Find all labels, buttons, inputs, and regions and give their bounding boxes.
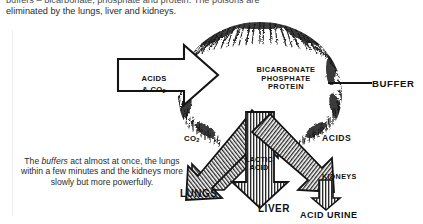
lactic-line-2: ACID bbox=[234, 164, 284, 172]
body-text-line-1-rest: – bicarbonate, phosphate and protein. Th… bbox=[34, 0, 260, 5]
caption-italic-term: buffers bbox=[42, 156, 68, 166]
input-label-line-2: & CO2 bbox=[118, 84, 190, 97]
organ-label-liver: LIVER bbox=[258, 203, 290, 214]
input-label-co: & CO bbox=[142, 85, 162, 94]
co2-subscript: 2 bbox=[196, 137, 200, 143]
organ-label-lungs: LUNGS bbox=[180, 188, 218, 199]
input-arrow-label: ACIDS & CO2 bbox=[118, 73, 190, 97]
core-line-3: PROTEIN bbox=[240, 83, 332, 92]
body-text-italic-term: buffers bbox=[6, 0, 34, 5]
buffer-core-label: BICARBONATE PHOSPHATE PROTEIN bbox=[240, 66, 332, 92]
page-root: buffers – bicarbonate, phosphate and pro… bbox=[0, 0, 423, 224]
output-label-co2: CO2 bbox=[184, 134, 200, 143]
co2-text: CO bbox=[184, 134, 196, 143]
buffer-system-diagram: BICARBONATE PHOSPHATE PROTEIN ACIDS & CO… bbox=[100, 14, 423, 224]
buffer-pointer-label: BUFFER bbox=[372, 78, 415, 89]
input-label-subscript: 2 bbox=[162, 88, 165, 94]
organ-label-kidneys: KIDNEYS bbox=[322, 172, 357, 181]
output-label-lactic-acid: LACTIC ACID bbox=[234, 156, 284, 172]
caption-part-1: The bbox=[24, 156, 41, 166]
product-label-acid-urine: ACID URINE bbox=[300, 210, 358, 220]
input-label-line-1: ACIDS bbox=[118, 73, 190, 84]
margin-rule bbox=[12, 30, 13, 216]
output-label-acids: ACIDS bbox=[322, 133, 351, 143]
